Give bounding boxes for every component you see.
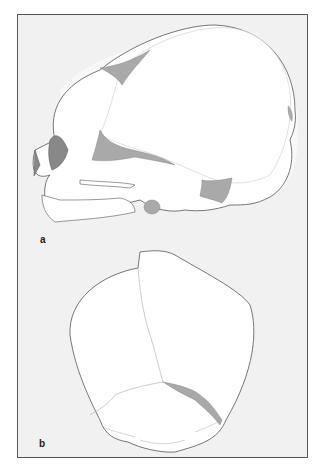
skull-illustration (0, 0, 320, 472)
panel-label-b: b (39, 438, 45, 449)
superior-skull (70, 251, 254, 452)
lateral-skull (33, 25, 298, 222)
panel-label-a: a (40, 234, 46, 245)
